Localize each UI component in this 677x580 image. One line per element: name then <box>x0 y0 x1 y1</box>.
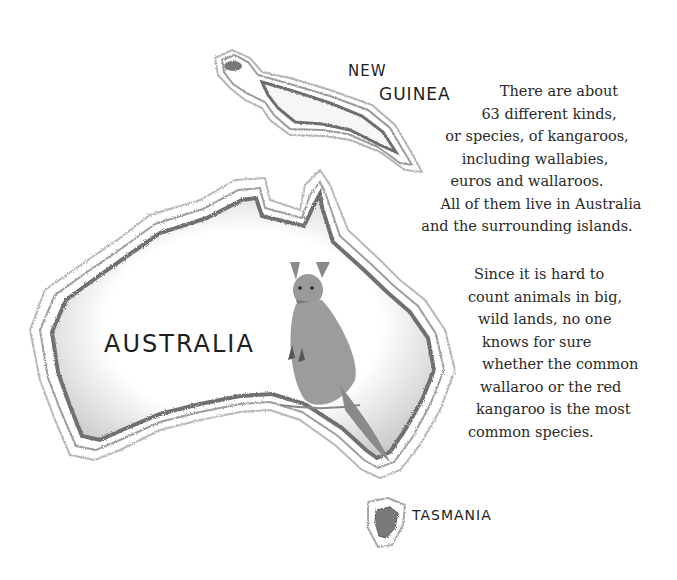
tasmania-label: TASMANIA <box>412 507 492 523</box>
text-line: or species, of kangaroos, <box>412 125 662 148</box>
text-line: All of them live in Australia <box>416 193 666 216</box>
tasmania-island <box>368 498 405 547</box>
new-guinea-island <box>215 50 422 172</box>
text-line: wild lands, no one <box>478 308 658 331</box>
text-line: There are about <box>434 80 677 103</box>
text-line: count animals in big, <box>468 286 648 309</box>
text-line: 63 different kinds, <box>424 103 674 126</box>
text-line: including wallabies, <box>410 148 660 171</box>
new-guinea-label: NEW <box>348 62 387 80</box>
intro-paragraph: There are about 63 different kinds, or s… <box>416 80 666 238</box>
australia-landmass <box>30 170 455 478</box>
counting-paragraph: Since it is hard to count animals in big… <box>466 263 646 443</box>
text-line: kangaroo is the most <box>476 398 656 421</box>
text-line: Since it is hard to <box>474 263 654 286</box>
text-line: common species. <box>468 421 648 444</box>
text-line: euros and wallaroos. <box>402 170 652 193</box>
text-line: whether the common <box>482 353 662 376</box>
text-line: knows for sure <box>482 331 662 354</box>
text-line: and the surrounding islands. <box>402 215 652 238</box>
text-line: wallaroo or the red <box>480 376 660 399</box>
australia-label: AUSTRALIA <box>104 330 255 358</box>
